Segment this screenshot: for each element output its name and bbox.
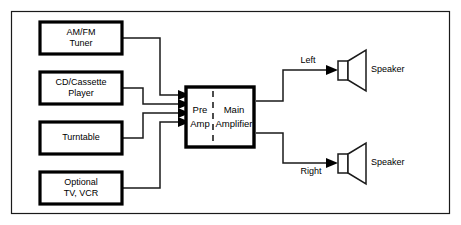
am-fm-tuner-label-line1: AM/FM xyxy=(67,27,96,37)
turntable-label-line1: Turntable xyxy=(62,132,100,142)
right-speaker-cone xyxy=(348,143,366,184)
main-amp-label-line2: Amplifier xyxy=(216,118,253,129)
source-block-turntable[interactable]: Turntable xyxy=(40,122,122,154)
left-speaker-label: Speaker xyxy=(371,64,405,74)
left-speaker-cone xyxy=(348,50,366,91)
cd-cassette-player-label-line1: CD/Cassette xyxy=(55,77,106,87)
diagram-canvas: AM/FM Tuner CD/Cassette Player Turntable… xyxy=(0,0,461,225)
wire-turntable-to-amp xyxy=(122,113,178,138)
speaker-icon xyxy=(338,50,366,91)
source-block-am-fm-tuner[interactable]: AM/FM Tuner xyxy=(40,22,122,54)
optional-tv-vcr-label-line2: TV, VCR xyxy=(64,188,99,198)
wire-amp-to-left-speaker xyxy=(256,70,326,101)
cd-cassette-player-label-line2: Player xyxy=(68,88,94,98)
left-channel-label: Left xyxy=(300,55,316,65)
right-speaker-driver xyxy=(338,154,348,173)
wire-amp-to-right-speaker xyxy=(256,133,326,163)
pre-amp-label-line1: Pre xyxy=(193,104,208,115)
speaker-icon xyxy=(338,143,366,184)
wire-cd-to-amp xyxy=(122,88,178,104)
right-speaker-label: Speaker xyxy=(371,157,405,167)
optional-tv-vcr-label-line1: Optional xyxy=(64,177,98,187)
wire-tuner-to-amp xyxy=(122,38,178,95)
wire-tv-vcr-to-amp xyxy=(122,122,178,188)
pre-amp-label-line2: Amp xyxy=(190,118,210,129)
source-block-cd-cassette-player[interactable]: CD/Cassette Player xyxy=(40,72,122,104)
audio-system-block-diagram: AM/FM Tuner CD/Cassette Player Turntable… xyxy=(0,0,461,225)
source-block-optional-tv-vcr[interactable]: Optional TV, VCR xyxy=(40,172,122,204)
arrowhead-left-speaker xyxy=(326,65,338,75)
right-channel-label: Right xyxy=(300,166,322,176)
am-fm-tuner-label-line2: Tuner xyxy=(69,38,92,48)
amplifier-unit[interactable]: Pre Amp Main Amplifier xyxy=(186,87,254,147)
main-amp-label-line1: Main xyxy=(224,104,245,115)
arrowhead-right-speaker xyxy=(326,158,338,168)
left-speaker-driver xyxy=(338,61,348,80)
